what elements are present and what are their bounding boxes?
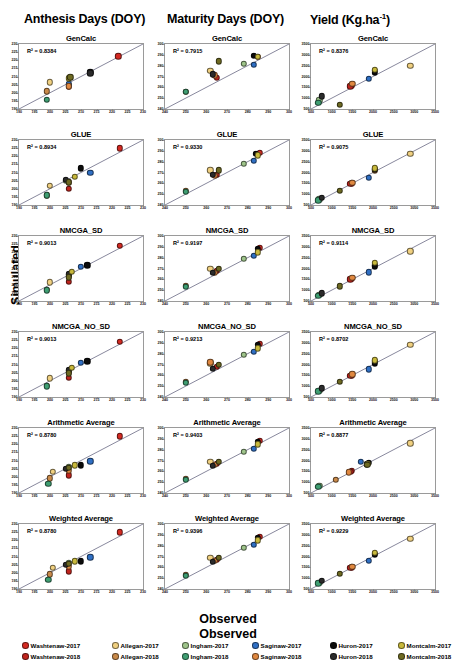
- x-tick-label: 1500: [348, 302, 356, 306]
- column-header-yield-tail: ): [386, 13, 390, 27]
- legend-item[interactable]: Ingham-2018: [182, 653, 228, 660]
- legend-item[interactable]: Ingham-2017: [182, 642, 228, 649]
- legend-item[interactable]: Allegan-2017: [112, 642, 159, 649]
- y-tick-mark: [163, 428, 165, 429]
- x-tick-mark: [66, 205, 67, 207]
- y-tick-mark: [17, 565, 19, 566]
- y-tick-mark: [17, 532, 19, 533]
- y-tick-mark: [309, 98, 311, 99]
- r-squared-label: R² = 0.8702: [319, 336, 348, 342]
- x-tick-mark: [352, 109, 353, 111]
- y-tick-label: 1500: [302, 85, 310, 89]
- panel-title: NMCGA_SD: [18, 226, 144, 235]
- x-tick-label: 230: [140, 590, 146, 594]
- panel-yield-NMCGA_NO_SD: NMCGA_NO_SDR² = 0.8702500100015002000250…: [310, 322, 436, 408]
- x-tick-mark: [66, 589, 67, 591]
- plot-area: R² = 0.901319019520020521021522022523019…: [18, 235, 144, 302]
- x-tick-mark: [97, 205, 98, 207]
- y-tick-mark: [17, 469, 19, 470]
- x-tick-mark: [373, 109, 374, 111]
- x-tick-mark: [206, 493, 207, 495]
- legend-item[interactable]: Washtenaw-2018: [22, 653, 80, 660]
- x-tick-label: 260: [203, 494, 209, 498]
- legend-title: Observed: [0, 627, 456, 641]
- r-squared-label: R² = 0.8877: [319, 432, 348, 438]
- y-tick-mark: [163, 524, 165, 525]
- legend-swatch-icon: [22, 642, 29, 649]
- y-tick-mark: [17, 381, 19, 382]
- x-tick-label: 3500: [431, 302, 439, 306]
- y-tick-label: 2000: [302, 555, 310, 559]
- x-tick-mark: [35, 397, 36, 399]
- y-tick-label: 2500: [302, 352, 310, 356]
- y-tick-mark: [163, 279, 165, 280]
- y-tick-mark: [309, 578, 311, 579]
- plot-area: R² = 0.887750010001500200025003000350050…: [310, 427, 436, 494]
- y-tick-mark: [17, 189, 19, 190]
- x-tick-mark: [143, 589, 144, 591]
- legend-item[interactable]: Saginaw-2017: [252, 642, 302, 649]
- x-tick-label: 500: [308, 206, 314, 210]
- y-tick-mark: [17, 260, 19, 261]
- panel-anthesis-GenCalc: GenCalcR² = 0.83841901952002052102152202…: [18, 34, 144, 120]
- y-tick-label: 3500: [302, 330, 310, 334]
- x-tick-label: 3000: [410, 494, 418, 498]
- x-tick-label: 225: [125, 206, 131, 210]
- y-tick-mark: [163, 535, 165, 536]
- panel-title: GLUE: [164, 130, 290, 139]
- plot-area: R² = 0.791524025026027028029030024025026…: [164, 43, 290, 110]
- plot-area: R² = 0.893419019520020521021522022523019…: [18, 139, 144, 206]
- x-tick-mark: [394, 397, 395, 399]
- r-squared-label: R² = 0.8780: [27, 432, 56, 438]
- y-tick-mark: [17, 373, 19, 374]
- x-tick-label: 225: [125, 110, 131, 114]
- x-tick-label: 300: [286, 110, 292, 114]
- panel-title: Weighted Average: [164, 514, 290, 523]
- y-tick-mark: [163, 471, 165, 472]
- y-tick-mark: [17, 44, 19, 45]
- x-tick-label: 240: [162, 206, 168, 210]
- x-tick-mark: [373, 493, 374, 495]
- x-tick-label: 190: [16, 110, 22, 114]
- x-tick-label: 500: [308, 110, 314, 114]
- legend-item[interactable]: Washtenaw-2017: [22, 642, 80, 649]
- y-tick-mark: [163, 162, 165, 163]
- panel-anthesis-Weighted Average: Weighted AverageR² = 0.87801901952002052…: [18, 514, 144, 600]
- x-tick-label: 195: [32, 110, 38, 114]
- legend-item[interactable]: Huron-2017: [330, 642, 373, 649]
- legend-item[interactable]: Montcalm-2017: [398, 642, 451, 649]
- legend-item[interactable]: Saginaw-2018: [252, 653, 302, 660]
- x-tick-mark: [248, 589, 249, 591]
- x-tick-label: 1000: [328, 398, 336, 402]
- y-tick-mark: [17, 85, 19, 86]
- x-tick-label: 270: [224, 110, 230, 114]
- x-tick-label: 290: [265, 398, 271, 402]
- y-tick-mark: [309, 162, 311, 163]
- r-squared-label: R² = 0.8780: [27, 528, 56, 534]
- panel-anthesis-Arithmetic Average: Arithmetic AverageR² = 0.878019019520020…: [18, 418, 144, 504]
- panel-title: Arithmetic Average: [164, 418, 290, 427]
- y-tick-mark: [17, 428, 19, 429]
- x-tick-label: 3000: [410, 110, 418, 114]
- x-tick-mark: [81, 109, 82, 111]
- x-tick-label: 1500: [348, 110, 356, 114]
- legend-item[interactable]: Huron-2018: [330, 653, 373, 660]
- legend-item[interactable]: Montcalm-2018: [398, 653, 451, 660]
- x-tick-label: 220: [109, 110, 115, 114]
- x-tick-label: 290: [265, 494, 271, 498]
- x-tick-label: 240: [162, 302, 168, 306]
- x-tick-mark: [81, 493, 82, 495]
- x-tick-label: 270: [224, 302, 230, 306]
- x-tick-mark: [332, 589, 333, 591]
- r-squared-label: R² = 0.9114: [319, 240, 348, 246]
- y-tick-mark: [17, 197, 19, 198]
- legend-item[interactable]: Allegan-2018: [112, 653, 159, 660]
- x-tick-mark: [268, 493, 269, 495]
- x-tick-label: 2000: [369, 398, 377, 402]
- x-tick-mark: [227, 493, 228, 495]
- x-tick-mark: [435, 109, 436, 111]
- column-headers: Anthesis Days (DOY) Maturity Days (DOY) …: [0, 12, 456, 34]
- x-tick-mark: [35, 589, 36, 591]
- legend-swatch-icon: [22, 653, 29, 660]
- x-tick-label: 210: [78, 398, 84, 402]
